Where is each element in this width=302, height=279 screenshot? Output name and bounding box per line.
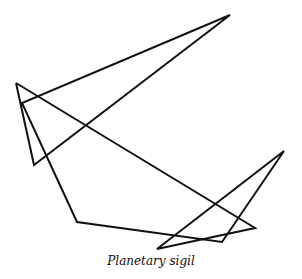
sigil-figure: Planetary sigil [0,0,302,279]
figure-caption: Planetary sigil [0,254,302,268]
planetary-sigil-drawing [0,0,302,279]
sigil-path [16,15,284,249]
